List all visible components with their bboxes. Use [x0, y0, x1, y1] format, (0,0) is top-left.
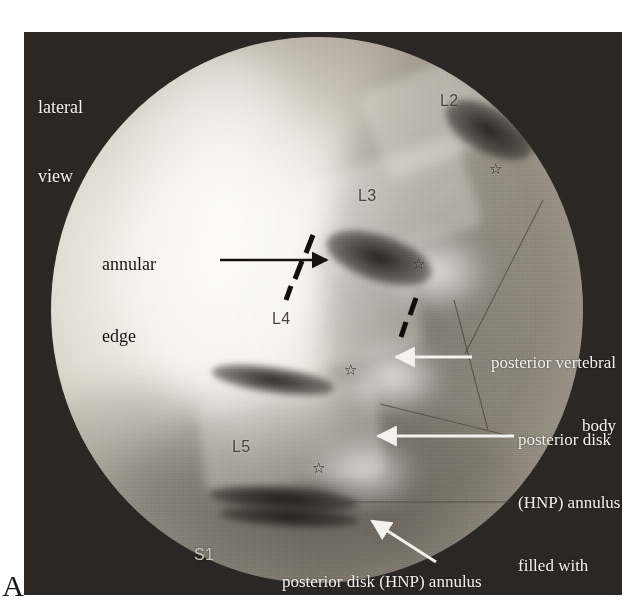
leader-to-l4-l5-star: [380, 404, 510, 436]
leader-to-l2-l3-star: [465, 200, 543, 354]
figure-panel-letter: A: [0, 566, 26, 606]
leader-lines: [350, 200, 543, 502]
annular-edge-dashed-outline: [286, 235, 416, 337]
annotation-overlay: [24, 32, 622, 595]
posterior-disk-l5-s1-arrow: [372, 521, 436, 562]
radiograph-image: lateral view annular edge posterior vert…: [24, 32, 622, 595]
figure-root: A: [0, 0, 643, 611]
